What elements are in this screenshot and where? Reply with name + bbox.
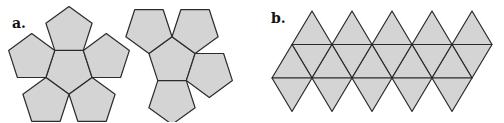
dodecahedron-face	[186, 54, 232, 98]
icosahedron-face	[372, 11, 412, 45]
icosahedron-face	[272, 78, 312, 112]
dodecahedron-face	[9, 34, 55, 78]
icosahedron-face	[412, 11, 452, 45]
icosahedron-face	[292, 11, 332, 45]
icosahedron-face	[312, 78, 352, 112]
icosahedron-face	[452, 11, 492, 45]
panel-b-icosahedron-net: b.	[271, 10, 492, 112]
icosahedron-face	[332, 11, 372, 45]
dodecahedron-face	[149, 81, 195, 122]
panel-a-dodecahedron-net: a.	[9, 7, 233, 123]
polyhedron-nets-figure: a. b.	[0, 0, 504, 122]
icosahedron-face	[432, 78, 472, 112]
panel-a-label: a.	[12, 15, 26, 31]
icosahedron-faces	[272, 11, 492, 112]
dodecahedron-face	[46, 7, 92, 51]
icosahedron-face	[392, 78, 432, 112]
dodecahedron-face	[83, 34, 129, 78]
icosahedron-face	[352, 78, 392, 112]
dodecahedron-faces	[9, 7, 233, 123]
panel-b-label: b.	[271, 10, 286, 26]
